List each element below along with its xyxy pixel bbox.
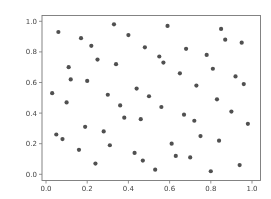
data-point [246, 122, 250, 126]
data-points [50, 22, 250, 173]
data-point [223, 38, 227, 42]
data-point [209, 169, 213, 173]
data-point [122, 116, 126, 120]
data-point [205, 53, 209, 57]
data-point [184, 47, 188, 51]
data-point [170, 142, 174, 146]
data-point [233, 74, 237, 78]
data-point [83, 125, 87, 129]
x-tick-label: 1.0 [246, 185, 257, 193]
x-tick-label: 0.4 [123, 185, 135, 193]
data-point [93, 161, 97, 165]
data-point [112, 22, 116, 26]
x-tick-label: 0.6 [164, 185, 176, 193]
data-point [143, 45, 147, 49]
data-point [54, 132, 58, 136]
y-axis: 0.00.20.40.60.81.0 [26, 18, 42, 179]
data-point [188, 155, 192, 159]
data-point [141, 158, 145, 162]
x-tick-label: 0.0 [40, 185, 51, 193]
data-point [240, 41, 244, 45]
data-point [118, 103, 122, 107]
data-point [60, 137, 64, 141]
data-point [89, 44, 93, 48]
data-point [215, 97, 219, 101]
data-point [135, 87, 139, 91]
data-point [211, 67, 215, 71]
data-point [114, 62, 118, 66]
data-point [79, 36, 83, 40]
data-point [56, 30, 60, 34]
data-point [106, 93, 110, 97]
data-point [192, 119, 196, 123]
data-point [238, 163, 242, 167]
data-point [139, 117, 143, 121]
y-tick-label: 0.6 [26, 79, 38, 87]
data-point [174, 154, 178, 158]
data-point [132, 151, 136, 155]
data-point [69, 77, 73, 81]
data-point [102, 129, 106, 133]
data-point [77, 148, 81, 152]
x-tick-label: 0.8 [205, 185, 216, 193]
data-point [108, 143, 112, 147]
y-tick-label: 0.8 [26, 48, 37, 56]
data-point [198, 134, 202, 138]
data-point [161, 61, 165, 65]
data-point [95, 57, 99, 61]
y-tick-label: 0.4 [26, 110, 38, 118]
data-point [219, 27, 223, 31]
data-point [178, 71, 182, 75]
data-point [65, 100, 69, 104]
data-point [165, 24, 169, 28]
data-point [153, 168, 157, 172]
y-tick-label: 0.0 [26, 171, 37, 179]
data-point [157, 54, 161, 58]
data-point [126, 33, 130, 37]
data-point [229, 109, 233, 113]
scatter-chart: 0.00.20.40.60.81.0 0.00.20.40.60.81.0 [0, 0, 271, 199]
x-tick-label: 0.2 [82, 185, 93, 193]
data-point [85, 79, 89, 83]
data-point [67, 65, 71, 69]
data-point [242, 82, 246, 86]
data-point [182, 113, 186, 117]
y-tick-label: 0.2 [26, 140, 37, 148]
plot-frame [42, 16, 261, 181]
data-point [147, 94, 151, 98]
data-point [194, 83, 198, 87]
y-tick-label: 1.0 [26, 18, 37, 26]
data-point [50, 91, 54, 95]
data-point [217, 139, 221, 143]
data-point [159, 105, 163, 109]
x-axis: 0.00.20.40.60.81.0 [40, 181, 257, 194]
